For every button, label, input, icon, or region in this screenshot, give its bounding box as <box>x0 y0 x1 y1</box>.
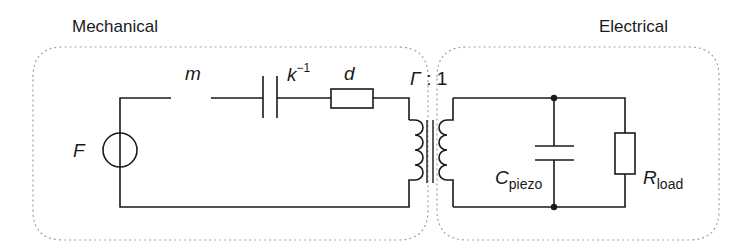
transformer-ratio-label: Γ : 1 <box>410 69 447 88</box>
junction-top <box>551 95 557 101</box>
electrical-title: Electrical <box>599 18 668 35</box>
mechanical-title: Mechanical <box>72 18 158 35</box>
junction-bottom <box>551 204 557 210</box>
compliance-label: k−1 <box>287 64 310 84</box>
load-resistor-icon <box>615 133 635 174</box>
damper-label: d <box>344 64 355 83</box>
mechanical-boundary <box>33 47 428 240</box>
load-resistor-label: Rload <box>643 168 683 187</box>
circuit-drawing <box>0 0 752 250</box>
mass-label: m <box>185 64 201 83</box>
equivalent-circuit-diagram: Mechanical Electrical F m k−1 d Γ : 1 Cp… <box>0 0 752 250</box>
primary-coil-icon <box>409 120 423 182</box>
secondary-coil-icon <box>439 98 453 207</box>
piezo-capacitor-label: Cpiezo <box>495 168 542 187</box>
force-label: F <box>73 141 85 160</box>
mechanical-return-wire <box>120 167 409 207</box>
electrical-boundary <box>437 47 719 240</box>
damper-resistor-icon <box>331 89 373 108</box>
